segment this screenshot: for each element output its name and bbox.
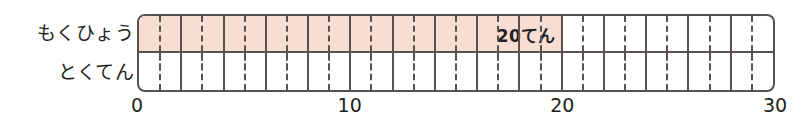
gridline-minor	[709, 53, 711, 90]
gridline-minor	[582, 53, 584, 90]
gridline-minor	[624, 53, 626, 90]
gridline-minor	[286, 53, 288, 90]
gridline-minor	[244, 53, 246, 90]
row-label-goal: もくひょう	[37, 23, 135, 44]
axis-tick-label: 10	[338, 94, 362, 116]
gridline-minor	[751, 53, 753, 90]
axis-tick-label: 20	[550, 94, 574, 116]
gridline-minor	[497, 53, 499, 90]
gridlines-score	[139, 53, 773, 90]
gridline-minor	[455, 53, 457, 90]
plot-area: 20てん	[139, 16, 773, 90]
row-label-score: とくてん	[58, 62, 134, 83]
gridline-minor	[328, 53, 330, 90]
worksheet-bar-chart: もくひょう とくてん 20てん 0102030	[0, 0, 811, 130]
axis-tick-label: 30	[763, 94, 787, 116]
gridline-minor	[540, 53, 542, 90]
gridline-minor	[370, 53, 372, 90]
row-label-group: もくひょう とくてん	[14, 14, 134, 92]
gridline-minor	[159, 53, 161, 90]
axis-tick-label: 0	[131, 94, 143, 116]
gridline-minor	[413, 53, 415, 90]
x-axis: 0102030	[137, 94, 775, 124]
gridline-minor	[201, 53, 203, 90]
chart-frame: 20てん	[137, 14, 775, 92]
gridline-minor	[666, 53, 668, 90]
